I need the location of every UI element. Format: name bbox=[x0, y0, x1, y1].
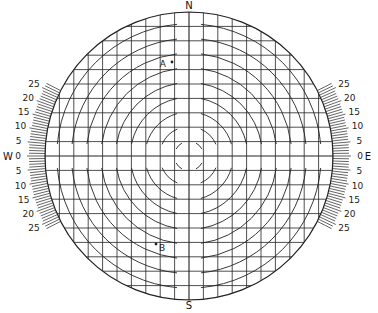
west-scale-label: 25 bbox=[28, 223, 39, 233]
east-scale-label: 5 bbox=[356, 136, 362, 146]
east-scale-label: 10 bbox=[352, 121, 364, 131]
east-scale-label: 10 bbox=[352, 181, 364, 191]
east-scale-label: 0 bbox=[357, 151, 363, 161]
point-b-marker bbox=[155, 243, 158, 246]
west-scale-label: 20 bbox=[23, 93, 35, 103]
west-scale-label: 10 bbox=[15, 181, 27, 191]
east-scale-label: 15 bbox=[348, 107, 359, 117]
west-scale-label: 0 bbox=[15, 151, 21, 161]
east-scale-label: 25 bbox=[338, 223, 349, 233]
east-scale-label: 20 bbox=[344, 209, 356, 219]
west-scale-label: 5 bbox=[16, 166, 22, 176]
east-scale-label: 5 bbox=[356, 166, 362, 176]
west-scale-label: 25 bbox=[28, 79, 39, 89]
point-a-marker bbox=[171, 61, 174, 64]
cardinal-west: W bbox=[3, 151, 13, 162]
sky-chart: 25201510505101520252520151050510152025NS… bbox=[0, 0, 378, 313]
cardinal-north: N bbox=[185, 0, 192, 11]
west-scale-label: 15 bbox=[18, 107, 29, 117]
point-a-label: A bbox=[160, 59, 167, 69]
west-scale-label: 20 bbox=[23, 209, 35, 219]
cardinal-east: E bbox=[365, 151, 371, 162]
west-scale-label: 15 bbox=[18, 195, 29, 205]
west-scale-label: 5 bbox=[16, 136, 22, 146]
cardinal-south: S bbox=[186, 300, 192, 311]
grid bbox=[45, 12, 333, 300]
east-scale-label: 20 bbox=[344, 93, 356, 103]
east-scale-label: 25 bbox=[338, 79, 349, 89]
west-scale-label: 10 bbox=[15, 121, 27, 131]
east-scale-label: 15 bbox=[348, 195, 359, 205]
point-b-label: B bbox=[159, 243, 165, 253]
